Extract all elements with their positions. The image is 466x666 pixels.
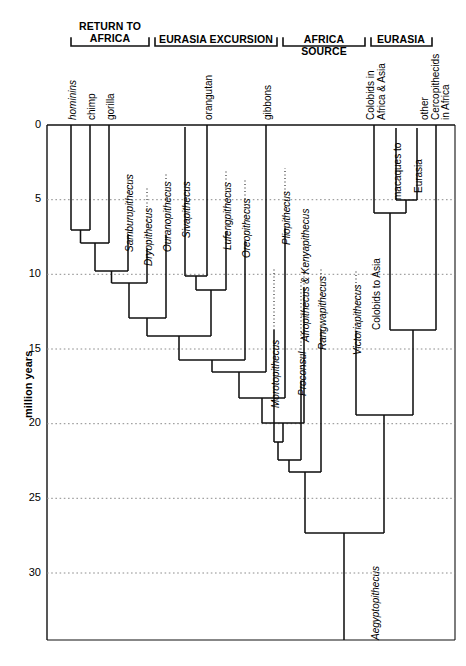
- tip-label-other-cercopithecids: other Cercopithecids in Africa: [420, 54, 452, 120]
- fossil-label-pliopithecus: Pliopithecus: [282, 191, 293, 245]
- fossil-label-victoriapithecus: Victoriapithecus: [353, 285, 364, 355]
- tip-label-gorilla: gorilla: [106, 93, 117, 120]
- fossil-label-afropithecus-kenyapithecus: Afropithecus & Kenyapithecus: [301, 209, 312, 342]
- fossil-label-samburupithecus: Samburupithecus: [125, 174, 136, 252]
- fossil-label-dryopithecus: Dryopithecus: [144, 208, 155, 266]
- fossil-label-morotopithecus: Morotopithecus: [271, 340, 282, 408]
- fossil-label-rangwapithecus: Rangwapithecus: [318, 276, 329, 350]
- event-label-eurasia: Eurasia: [414, 159, 425, 193]
- fossil-label-ouranopithecus: Ouranopithecus: [163, 181, 174, 252]
- tip-label-chimp: chimp: [87, 93, 98, 120]
- figure-canvas: RETURN TO AFRICA EURASIA EXCURSION AFRIC…: [0, 0, 466, 666]
- fossil-label-proconsul: Proconsul: [298, 352, 309, 396]
- fossil-label-sivapithecus: Sivapithecus: [182, 181, 193, 238]
- fossil-label-oreopithecus: Oreopithecus: [242, 199, 253, 258]
- fossil-label-lufengpithecus: Lufengpithecus: [223, 182, 234, 250]
- event-label-colobids-to-asia: Colobids to Asia: [372, 258, 383, 330]
- tip-label-orangutan: orangutan: [204, 75, 215, 120]
- tip-label-hominins: hominins: [68, 80, 79, 120]
- tip-label-gibbons: gibbons: [263, 85, 274, 120]
- tip-label-colobids-africa-asia: Colobids in Africa & Asia: [366, 63, 387, 120]
- fossil-label-aegyptopithecus: Aegyptopithecus: [371, 566, 382, 640]
- event-label-macaques-to: macaques to: [393, 143, 404, 200]
